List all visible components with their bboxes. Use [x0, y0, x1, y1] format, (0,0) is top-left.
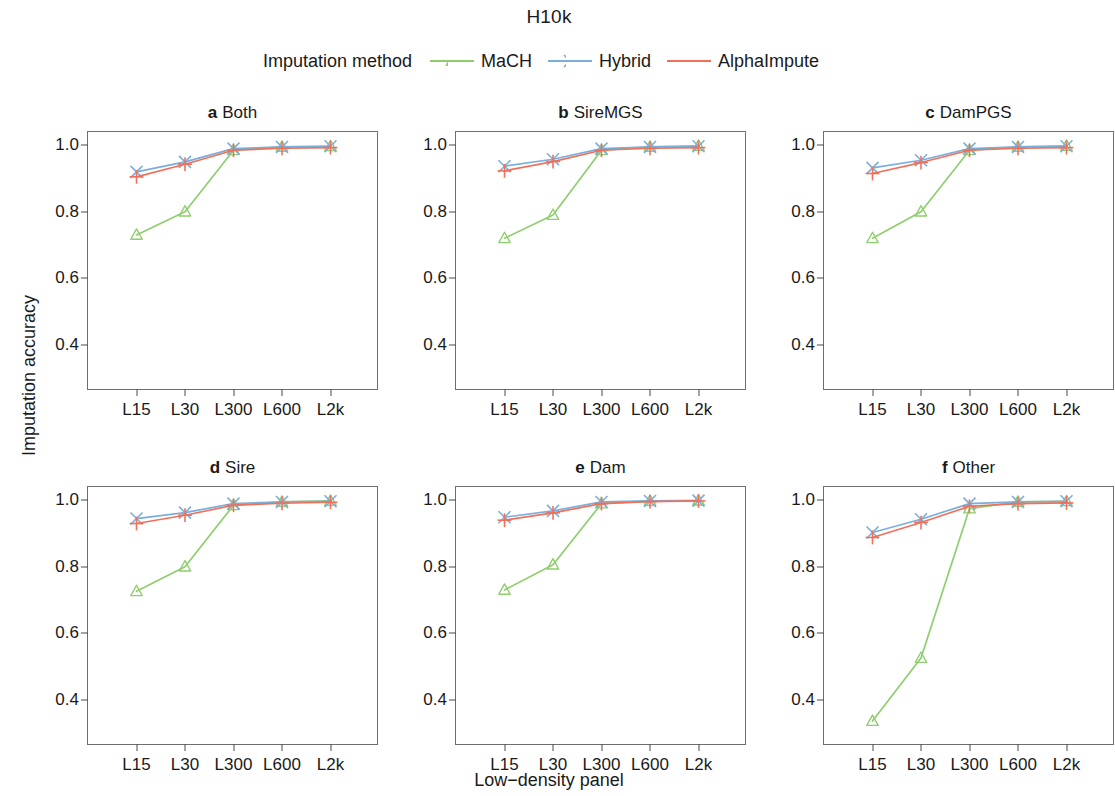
y-tick-mark [817, 699, 824, 700]
plus-marker [178, 157, 192, 171]
x-tick-label: L15 [490, 755, 518, 775]
y-tick-mark [817, 145, 824, 146]
x-tick-label: L15 [858, 755, 886, 775]
panel-name: Both [222, 103, 257, 122]
x-tick-label: L15 [858, 400, 886, 420]
panel-name: Other [953, 458, 996, 477]
x-tick-label: L300 [951, 755, 989, 775]
x-tick-label: L600 [631, 400, 669, 420]
y-tick-mark [817, 633, 824, 634]
plot-area-c: 1.00.80.60.4L15L30L300L600L2k [823, 131, 1114, 390]
y-tick-label: 1.0 [791, 490, 815, 510]
panel-name: SireMGS [574, 103, 643, 122]
legend-title: Imputation method [263, 51, 412, 72]
legend-item-alphaimpute[interactable]: AlphaImpute [667, 50, 819, 72]
x-tick-label: L2k [1053, 400, 1080, 420]
y-tick-mark [817, 211, 824, 212]
x-tick-label: L15 [122, 755, 150, 775]
panel-title-f: fOther [823, 458, 1114, 478]
y-tick-label: 0.8 [423, 202, 447, 222]
x-tick-label: L15 [122, 400, 150, 420]
x-tick-label: L2k [317, 400, 344, 420]
x-tick-label: L600 [263, 755, 301, 775]
y-tick-mark [817, 344, 824, 345]
y-tick-mark [449, 211, 456, 212]
x-tick-label: L300 [215, 755, 253, 775]
y-tick-label: 0.4 [791, 335, 815, 355]
panel-title-a: aBoth [87, 103, 378, 123]
x-tick-label: L300 [215, 400, 253, 420]
y-tick-mark [449, 500, 456, 501]
y-tick-mark [81, 145, 88, 146]
y-tick-mark [449, 278, 456, 279]
plus-marker [866, 167, 880, 181]
y-tick-label: 1.0 [423, 490, 447, 510]
plus-marker [1060, 141, 1074, 155]
legend-item-hybrid[interactable]: Hybrid [548, 50, 651, 72]
y-tick-mark [81, 278, 88, 279]
x-tick-label: L30 [171, 400, 199, 420]
plus-marker [682, 54, 685, 68]
y-tick-label: 0.6 [55, 268, 79, 288]
y-tick-mark [81, 500, 88, 501]
plus-marker [1011, 497, 1025, 511]
panel-title-c: cDamPGS [823, 103, 1114, 123]
panel-tag: c [925, 103, 934, 122]
plus-marker [546, 155, 560, 169]
y-tick-label: 1.0 [55, 490, 79, 510]
x-tick-label: L30 [907, 400, 935, 420]
series-alphaimpute [866, 496, 1074, 544]
y-axis-label: Imputation accuracy [19, 251, 40, 501]
x-tick-label: L30 [171, 755, 199, 775]
legend: Imputation method MaCHHybridAlphaImpute [0, 50, 1098, 72]
x-tick-label: L300 [583, 755, 621, 775]
panel-tag: a [208, 103, 217, 122]
figure-title: H10k [0, 6, 1098, 28]
y-tick-mark [449, 699, 456, 700]
panel-tag: f [942, 458, 948, 477]
x-tick-label: L600 [999, 755, 1037, 775]
y-tick-label: 0.8 [423, 557, 447, 577]
series-layer [88, 132, 379, 391]
plus-marker [498, 513, 512, 527]
legend-key-plus-marker [667, 50, 711, 72]
panel-f: fOther1.00.80.60.4L15L30L300L600L2k [823, 486, 1114, 745]
legend-key-triangle-marker [430, 50, 474, 72]
triangle-marker [446, 55, 448, 65]
y-tick-label: 1.0 [423, 135, 447, 155]
plus-marker [643, 141, 657, 155]
series-layer [456, 487, 747, 746]
y-tick-label: 1.0 [791, 135, 815, 155]
y-tick-label: 0.4 [55, 690, 79, 710]
y-tick-mark [817, 566, 824, 567]
plot-area-e: 1.00.80.60.4L15L30L300L600L2k [455, 486, 746, 745]
series-layer [88, 487, 379, 746]
y-tick-label: 0.8 [55, 202, 79, 222]
plus-marker [275, 141, 289, 155]
x-tick-label: L300 [951, 400, 989, 420]
x-tick-label: L30 [907, 755, 935, 775]
y-tick-mark [81, 633, 88, 634]
panel-title-b: bSireMGS [455, 103, 746, 123]
plus-marker [914, 156, 928, 170]
x-tick-label: L30 [539, 400, 567, 420]
y-tick-label: 1.0 [55, 135, 79, 155]
series-layer [456, 132, 747, 391]
legend-item-mach[interactable]: MaCH [430, 50, 532, 72]
legend-key-cross-x-marker [548, 50, 592, 72]
panel-a: aBoth1.00.80.60.4L15L30L300L600L2k [87, 131, 378, 390]
panel-tag: d [210, 458, 220, 477]
panel-e: eDam1.00.80.60.4L15L30L300L600L2k [455, 486, 746, 745]
series-alphaimpute [130, 141, 338, 184]
plus-marker [275, 496, 289, 510]
x-tick-label: L30 [539, 755, 567, 775]
y-tick-mark [81, 344, 88, 345]
plot-area-a: 1.00.80.60.4L15L30L300L600L2k [87, 131, 378, 390]
plus-marker [178, 508, 192, 522]
x-tick-label: L600 [263, 400, 301, 420]
x-tick-label: L15 [490, 400, 518, 420]
panel-title-d: dSire [87, 458, 378, 478]
panel-name: DamPGS [940, 103, 1012, 122]
y-tick-mark [817, 500, 824, 501]
series-alphaimpute [498, 494, 706, 527]
